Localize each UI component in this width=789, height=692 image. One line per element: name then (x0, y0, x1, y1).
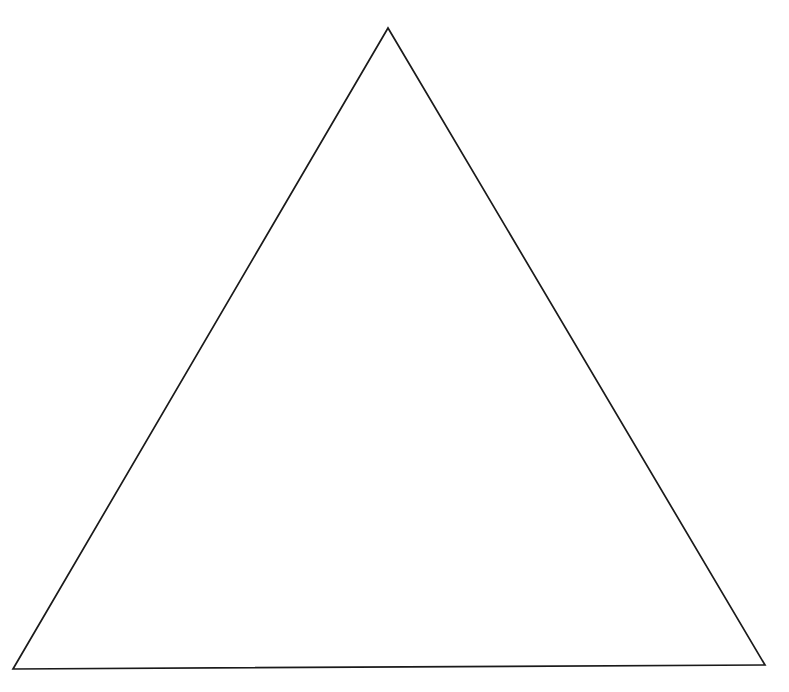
triangle-figure-svg (0, 0, 789, 692)
figure-background (0, 0, 789, 692)
figure-canvas: The triangle figure (0, 0, 789, 692)
